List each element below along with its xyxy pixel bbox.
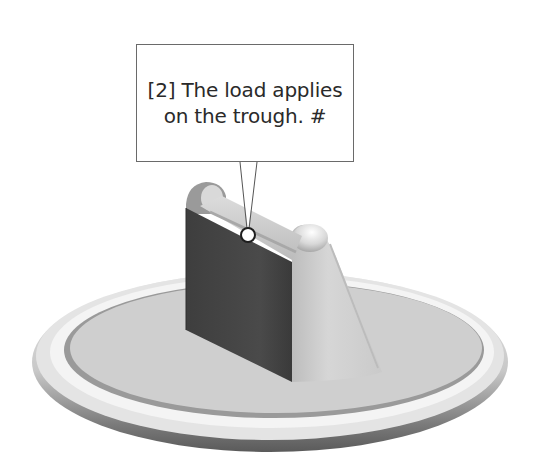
callout-text-line-2: on the trough. #	[164, 103, 327, 129]
callout-box: [2] The load applies on the trough. #	[136, 44, 354, 162]
load-point-marker	[241, 228, 255, 242]
callout-text-line-1: [2] The load applies	[148, 77, 343, 103]
